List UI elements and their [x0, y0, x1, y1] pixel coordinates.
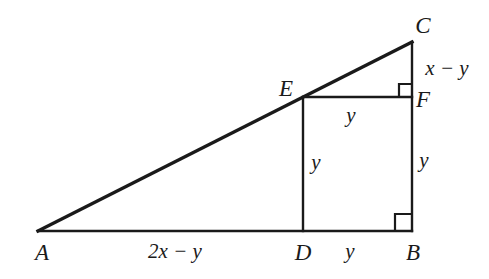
measure-label-db: y — [345, 241, 354, 262]
right-angle-mark-f — [399, 84, 412, 97]
vertex-label-e: E — [279, 77, 293, 100]
measure-label-ad: 2x − y — [148, 241, 202, 262]
segment-ac-hypotenuse — [38, 42, 412, 231]
vertex-label-a: A — [35, 241, 49, 264]
figure-canvas — [0, 0, 489, 279]
triangle-outline — [38, 42, 412, 231]
vertex-label-d: D — [295, 241, 312, 264]
vertex-label-c: C — [415, 14, 430, 37]
right-angle-mark-b — [395, 214, 412, 231]
vertex-label-f: F — [416, 88, 430, 111]
measure-label-ed: y — [311, 152, 320, 173]
right-angle-marks — [395, 84, 412, 231]
vertex-label-b: B — [406, 241, 420, 264]
measure-label-cf: x − y — [425, 58, 468, 79]
measure-label-ef: y — [346, 105, 355, 126]
measure-label-fb: y — [419, 150, 428, 171]
geometry-figure: A B C D E F 2x − y y x − y y y y — [0, 0, 489, 279]
